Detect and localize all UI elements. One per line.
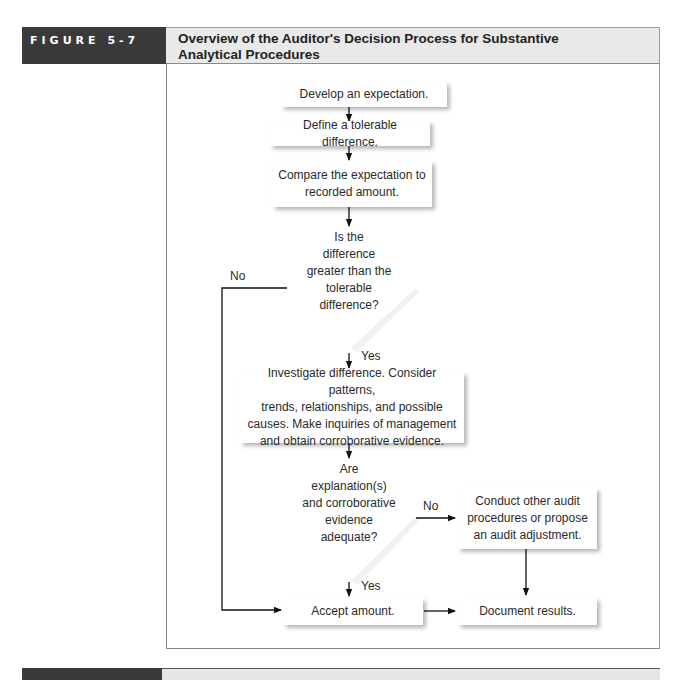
label-yes-1: Yes <box>361 349 381 363</box>
step-accept-text: Accept amount. <box>311 603 394 620</box>
step-accept-amount: Accept amount. <box>283 598 423 625</box>
step-develop-text: Develop an expectation. <box>300 86 429 103</box>
step-conduct-line-3: an audit adjustment. <box>473 527 581 544</box>
decision1-line-1: Is the <box>289 229 409 246</box>
step-investigate-difference: Investigate difference. Consider pattern… <box>240 372 464 443</box>
next-figure-title-bar <box>162 668 660 680</box>
step-investigate-line-4: and obtain corroborative evidence. <box>260 433 444 450</box>
decision1-line-3: greater than the <box>289 263 409 280</box>
decision2-line-3: and corroborative <box>289 495 409 512</box>
decision-difference-greater: Is the difference greater than the toler… <box>289 229 409 314</box>
step-compare-line-1: Compare the expectation to <box>278 167 425 184</box>
step-compare-line-2: recorded amount. <box>305 184 399 201</box>
next-figure-label-bar <box>22 668 162 680</box>
decision2-line-1: Are <box>289 461 409 478</box>
step-conduct-other-procedures: Conduct other audit procedures or propos… <box>458 488 597 549</box>
decision1-line-4: tolerable <box>289 280 409 297</box>
step-define-text: Define a tolerable difference. <box>276 117 424 151</box>
step-define-tolerable-difference: Define a tolerable difference. <box>270 121 430 146</box>
label-no-2: No <box>423 499 438 513</box>
decision2-line-2: explanation(s) <box>289 478 409 495</box>
decision2-line-5: adequate? <box>289 529 409 546</box>
step-compare-expectation: Compare the expectation to recorded amou… <box>272 161 432 207</box>
step-conduct-line-2: procedures or propose <box>467 510 588 527</box>
step-conduct-line-1: Conduct other audit <box>475 493 580 510</box>
step-investigate-line-1: Investigate difference. Consider pattern… <box>246 365 458 399</box>
step-document-results: Document results. <box>458 598 597 625</box>
step-develop-expectation: Develop an expectation. <box>281 82 447 107</box>
label-no-1: No <box>230 269 245 283</box>
decision1-line-5: difference? <box>289 297 409 314</box>
decision2-line-4: evidence <box>289 512 409 529</box>
step-document-text: Document results. <box>479 603 576 620</box>
label-yes-2: Yes <box>361 579 381 593</box>
step-investigate-line-3: causes. Make inquiries of management <box>248 416 457 433</box>
decision1-line-2: difference <box>289 246 409 263</box>
decision-evidence-adequate: Are explanation(s) and corroborative evi… <box>289 461 409 546</box>
step-investigate-line-2: trends, relationships, and possible <box>261 399 442 416</box>
